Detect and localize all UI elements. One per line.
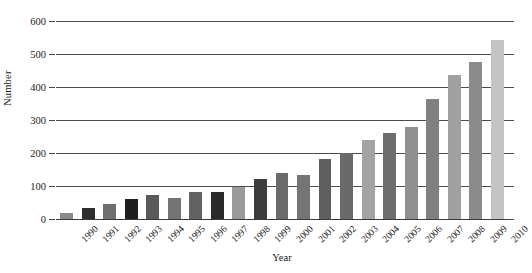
bar-2005: [383, 133, 396, 219]
y-tick-mark-400: [49, 87, 55, 88]
bar-2008: [448, 75, 461, 219]
x-tick-label-1990: 1990: [78, 223, 99, 244]
bar-1994: [146, 195, 159, 219]
x-tick-label-2006: 2006: [423, 223, 444, 244]
x-tick-label-1997: 1997: [229, 223, 250, 244]
y-tick-right-400: [508, 87, 514, 88]
x-tick-label-2002: 2002: [337, 223, 358, 244]
y-axis-title: Number: [2, 26, 18, 106]
bar-2009: [469, 62, 482, 219]
x-tick-label-2003: 2003: [358, 223, 379, 244]
x-tick-label-1993: 1993: [143, 223, 164, 244]
bar-chart-figure: Number 0100200300400500600 1990199119921…: [0, 0, 532, 273]
y-tick-mark-500: [49, 54, 55, 55]
x-tick-label-2009: 2009: [487, 223, 508, 244]
x-axis-tick-labels: 1990199119921993199419951996199719981999…: [56, 220, 508, 254]
y-tick-right-100: [508, 186, 514, 187]
x-tick-label-1991: 1991: [100, 223, 121, 244]
y-tick-mark-300: [49, 120, 55, 121]
x-tick-label-1994: 1994: [164, 223, 185, 244]
x-tick-label-2007: 2007: [444, 223, 465, 244]
plot-area: 0100200300400500600: [56, 21, 508, 219]
x-tick-label-2008: 2008: [466, 223, 487, 244]
x-tick-label-2000: 2000: [294, 223, 315, 244]
bar-2003: [340, 153, 353, 219]
y-tick-mark-100: [49, 186, 55, 187]
bar-1992: [103, 204, 116, 219]
y-tick-label-500: 500: [6, 49, 46, 60]
y-tick-label-400: 400: [6, 82, 46, 93]
y-tick-right-300: [508, 120, 514, 121]
y-tick-mark-200: [49, 153, 55, 154]
y-tick-label-0: 0: [6, 214, 46, 225]
y-tick-label-200: 200: [6, 148, 46, 159]
x-tick-label-1998: 1998: [251, 223, 272, 244]
bar-1993: [125, 199, 138, 219]
bar-1990: [60, 213, 73, 219]
bar-1999: [254, 179, 267, 219]
bar-2004: [362, 140, 375, 219]
y-tick-mark-0: [49, 219, 55, 220]
x-axis-title: Year: [56, 252, 508, 263]
bar-2010: [491, 40, 504, 219]
y-tick-right-200: [508, 153, 514, 154]
y-tick-label-100: 100: [6, 181, 46, 192]
y-tick-right-0: [508, 219, 514, 220]
x-tick-label-2005: 2005: [401, 223, 422, 244]
x-tick-label-2004: 2004: [380, 223, 401, 244]
bar-1991: [82, 208, 95, 219]
bar-1997: [211, 192, 224, 219]
y-tick-right-600: [508, 21, 514, 22]
y-tick-mark-600: [49, 21, 55, 22]
bar-1998: [232, 187, 245, 219]
x-tick-label-1999: 1999: [272, 223, 293, 244]
bar-2001: [297, 175, 310, 219]
x-tick-label-1996: 1996: [208, 223, 229, 244]
x-tick-label-2010: 2010: [509, 223, 530, 244]
bar-2000: [276, 173, 289, 219]
x-tick-label-1995: 1995: [186, 223, 207, 244]
bar-2002: [319, 159, 332, 219]
x-tick-label-1992: 1992: [121, 223, 142, 244]
y-tick-right-500: [508, 54, 514, 55]
bar-2006: [405, 127, 418, 219]
bar-1995: [168, 198, 181, 219]
y-tick-label-600: 600: [6, 16, 46, 27]
bars-layer: [56, 21, 508, 219]
x-tick-label-2001: 2001: [315, 223, 336, 244]
bar-1996: [189, 192, 202, 219]
y-tick-label-300: 300: [6, 115, 46, 126]
bar-2007: [426, 99, 439, 219]
